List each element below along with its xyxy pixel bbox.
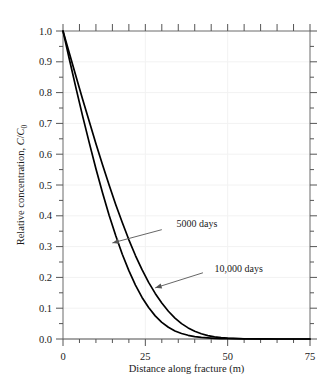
- y-axis-title-prefix: Relative concentration,: [15, 145, 26, 245]
- y-axis-title-subscript: 0: [20, 124, 29, 128]
- x-axis-title: Distance along fracture (m): [129, 363, 245, 375]
- y-tick-label: 0.9: [39, 56, 52, 67]
- annotation-10000-days-label: 10,000 days: [214, 263, 262, 274]
- y-tick-label: 1.0: [39, 26, 52, 37]
- y-tick-label: 0.6: [39, 149, 52, 160]
- chart-figure: 02550750.00.10.20.30.40.50.60.70.80.91.0…: [0, 0, 334, 389]
- y-tick-label: 0.1: [39, 303, 52, 314]
- y-tick-label: 0.5: [39, 180, 52, 191]
- y-tick-label: 0.0: [39, 334, 52, 345]
- x-tick-label: 25: [140, 351, 151, 362]
- x-tick-label: 75: [305, 351, 316, 362]
- y-tick-label: 0.2: [39, 272, 52, 283]
- x-tick-label: 50: [222, 351, 233, 362]
- y-tick-label: 0.4: [39, 210, 53, 221]
- y-tick-label: 0.3: [39, 241, 52, 252]
- concentration-vs-distance-chart: 02550750.00.10.20.30.40.50.60.70.80.91.0…: [0, 0, 334, 389]
- y-tick-label: 0.7: [39, 118, 52, 129]
- annotation-5000-days-label: 5000 days: [177, 218, 218, 229]
- x-tick-label: 0: [60, 351, 65, 362]
- y-tick-label: 0.8: [39, 87, 52, 98]
